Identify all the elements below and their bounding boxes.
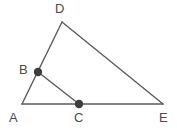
vertex-label-e: E — [159, 111, 168, 124]
vertex-label-a: A — [9, 111, 18, 124]
vertex-label-c: C — [74, 111, 84, 124]
segment-b-c — [38, 72, 79, 104]
segment-d-e — [62, 22, 163, 104]
segments-group — [22, 22, 163, 104]
vertex-label-d: D — [55, 2, 65, 15]
segment-a-d — [22, 22, 62, 104]
point-marker-c — [75, 100, 83, 108]
vertex-label-b: B — [19, 63, 28, 76]
point-marker-b — [34, 68, 42, 76]
geometry-figure: ABCDE — [0, 0, 177, 131]
